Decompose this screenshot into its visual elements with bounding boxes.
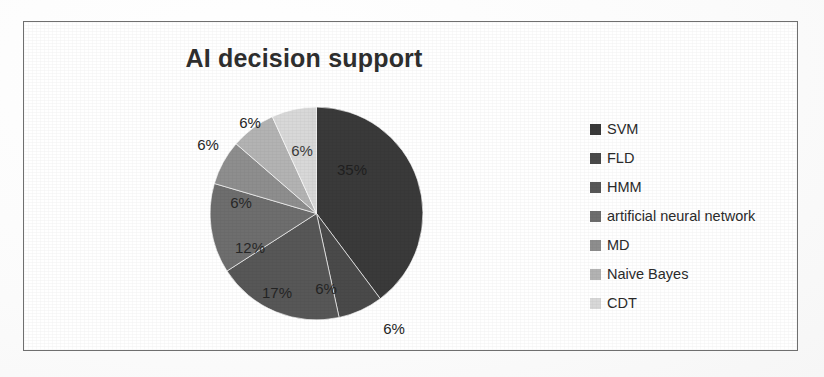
legend-item-label: HMM xyxy=(607,180,642,195)
legend-swatch-icon xyxy=(590,269,601,280)
slice-label-naive-bayes-outer: 6% xyxy=(197,137,219,152)
legend-item-label: MD xyxy=(607,238,630,253)
legend-item[interactable]: SVM xyxy=(590,115,810,144)
legend-item[interactable]: FLD xyxy=(590,144,810,173)
legend-item[interactable]: Naive Bayes xyxy=(590,260,810,289)
legend-item-label: artificial neural network xyxy=(607,209,755,224)
legend-swatch-icon xyxy=(590,153,601,164)
pie-chart-plot-area: 35% 6% 6% 17% 12% 6% 6% 6% 6% xyxy=(24,22,564,352)
chart-frame: AI decision support 35% 6% 6% 17% 12% 6%… xyxy=(23,21,798,351)
slice-label-cdt-outer: 6% xyxy=(239,115,261,130)
slice-label-fld: 6% xyxy=(315,281,337,296)
legend-swatch-icon xyxy=(590,182,601,193)
slice-label-svm: 35% xyxy=(337,162,367,177)
legend-swatch-icon xyxy=(590,211,601,222)
pie-chart[interactable]: 35% 6% 6% 17% 12% 6% 6% 6% 6% xyxy=(209,106,424,321)
legend-item-label: CDT xyxy=(607,296,637,311)
legend-swatch-icon xyxy=(590,124,601,135)
legend-item-label: FLD xyxy=(607,151,634,166)
slice-label-fld-outer: 6% xyxy=(383,321,405,336)
legend-swatch-icon xyxy=(590,240,601,251)
legend-swatch-icon xyxy=(590,298,601,309)
legend-item[interactable]: MD xyxy=(590,231,810,260)
slice-label-hmm: 17% xyxy=(262,285,292,300)
legend-item-label: SVM xyxy=(607,122,638,137)
chart-legend: SVMFLDHMMartificial neural networkMDNaiv… xyxy=(590,115,810,318)
slice-label-cdt-inner: 6% xyxy=(291,143,313,158)
legend-item[interactable]: CDT xyxy=(590,289,810,318)
legend-item[interactable]: artificial neural network xyxy=(590,202,810,231)
legend-item[interactable]: HMM xyxy=(590,173,810,202)
legend-item-label: Naive Bayes xyxy=(607,267,688,282)
slice-label-ann: 12% xyxy=(235,240,265,255)
slice-label-md: 6% xyxy=(230,195,252,210)
